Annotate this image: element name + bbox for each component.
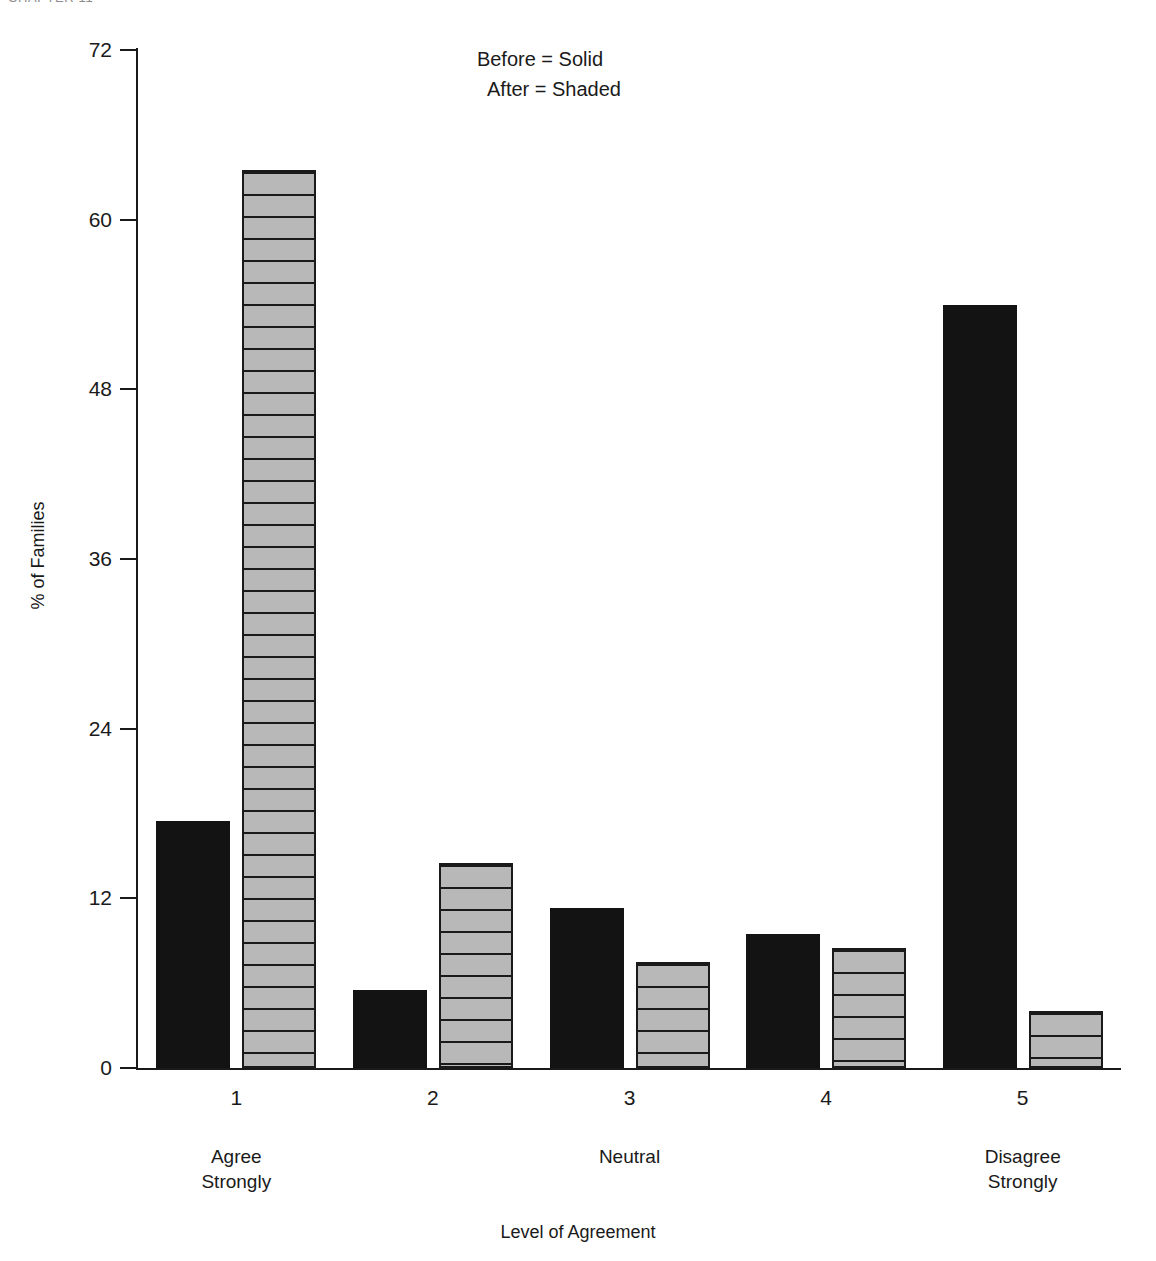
- y-axis-title: % of Families: [28, 471, 49, 641]
- x-group-label-line: Disagree: [943, 1144, 1103, 1169]
- x-tick-label: 2: [393, 1086, 473, 1110]
- x-group-label-line: Neutral: [550, 1144, 710, 1169]
- x-group-label: Neutral: [550, 1144, 710, 1169]
- bar-after-1: [242, 170, 316, 1068]
- x-group-label-line: Agree: [156, 1144, 316, 1169]
- x-tick-label: 5: [983, 1086, 1063, 1110]
- bar-before-4: [746, 934, 820, 1068]
- x-group-label: DisagreeStrongly: [943, 1144, 1103, 1194]
- plot-area: [0, 0, 1156, 1068]
- x-group-label: AgreeStrongly: [156, 1144, 316, 1194]
- bar-before-5: [943, 305, 1017, 1069]
- x-tick-label: 1: [196, 1086, 276, 1110]
- bar-before-3: [550, 908, 624, 1068]
- bar-after-4: [832, 948, 906, 1068]
- bar-after-5: [1029, 1011, 1103, 1068]
- bar-before-2: [353, 990, 427, 1068]
- x-tick-label: 4: [786, 1086, 866, 1110]
- x-group-label-line: Strongly: [156, 1169, 316, 1194]
- x-axis-line: [136, 1068, 1121, 1070]
- bar-after-2: [439, 863, 513, 1068]
- bar-after-3: [636, 962, 710, 1068]
- x-group-label-line: Strongly: [943, 1169, 1103, 1194]
- x-tick-label: 3: [590, 1086, 670, 1110]
- x-axis-title: Level of Agreement: [428, 1222, 728, 1243]
- bar-before-1: [156, 821, 230, 1068]
- bar-chart: Before = Solid After = Shaded 0122436486…: [0, 0, 1156, 1261]
